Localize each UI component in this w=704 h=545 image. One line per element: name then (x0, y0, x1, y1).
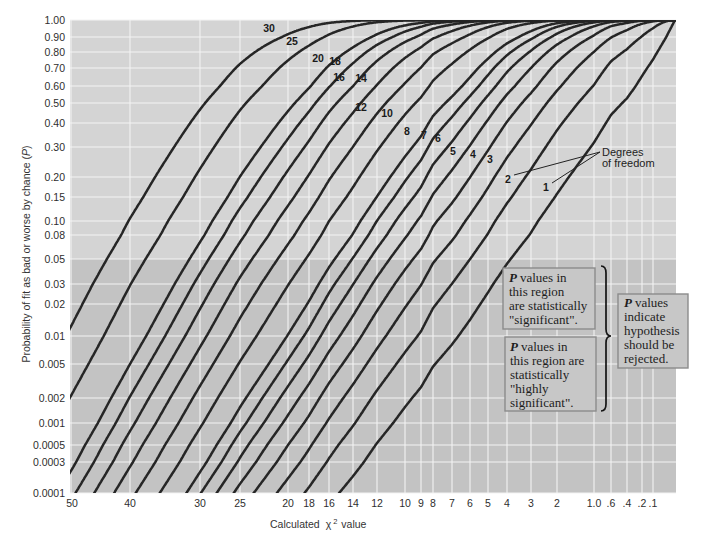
x-tick-label: .2 (638, 497, 647, 509)
curve-label-df-10: 10 (381, 107, 393, 119)
y-tick-label: 0.05 (45, 253, 66, 265)
curve-label-df-3: 3 (487, 153, 493, 165)
x-tick-label: .1 (649, 497, 658, 509)
x-tick-label: 16 (323, 497, 335, 509)
x-tick-label: 3 (528, 497, 534, 509)
x-tick-label: 25 (234, 497, 246, 509)
chi-symbol: χ (326, 518, 332, 530)
p-variable: P (624, 295, 633, 310)
x-tick-label: 1.0 (587, 497, 602, 509)
y-tick-label: 1.00 (45, 14, 66, 26)
annotation-line: hypothesis (624, 323, 680, 338)
x-tick-label: 12 (371, 497, 383, 509)
y-tick-label: 0.03 (45, 278, 66, 290)
p-variable: P (510, 339, 519, 354)
x-axis-label-text: Calculated (270, 518, 320, 530)
y-tick-label: 0.005 (39, 358, 65, 370)
y-tick-label: 0.08 (45, 229, 66, 241)
curve-label-df-8: 8 (404, 125, 410, 137)
y-tick-label: 0.50 (45, 97, 66, 109)
annotation-line: Pvalues (624, 295, 668, 310)
curve-label-df-25: 25 (286, 35, 298, 47)
annotation-line: this region are (510, 353, 585, 368)
curve-label-df-4: 4 (470, 148, 476, 160)
y-axis-tick-labels: 1.000.900.800.700.600.500.400.300.200.15… (33, 14, 65, 499)
annotation-highly-significant: Pvalues in this region are statistically… (505, 337, 596, 411)
annotation-reject-hypothesis: Pvalues indicate hypothesis should be re… (618, 294, 688, 368)
curve-label-df-18: 18 (329, 55, 341, 67)
curve-label-df-1: 1 (543, 181, 549, 193)
y-tick-label: 0.70 (45, 62, 66, 74)
annotation-line: are statistically (509, 298, 588, 313)
y-tick-label: 0.0001 (33, 487, 65, 499)
x-tick-label: 9 (418, 497, 424, 509)
y-tick-label: 0.40 (45, 117, 66, 129)
y-tick-label: 0.01 (45, 330, 66, 342)
y-tick-label: 0.20 (45, 171, 66, 183)
x-tick-label: .4 (623, 497, 632, 509)
chi-square-chart-figure: 1.000.900.800.700.600.500.400.300.200.15… (0, 0, 704, 545)
curve-label-df-7: 7 (421, 129, 427, 141)
y-axis-label-close: ) (20, 145, 32, 149)
y-tick-label: 0.90 (45, 31, 66, 43)
y-tick-label: 0.02 (45, 298, 66, 310)
annotation-line: rejected. (624, 351, 668, 366)
x-tick-label: 7 (449, 497, 455, 509)
x-tick-label: 8 (430, 497, 436, 509)
x-tick-label: 2 (554, 497, 560, 509)
callout-line-2: of freedom (602, 157, 655, 169)
x-tick-label: 40 (124, 497, 136, 509)
x-tick-label: 18 (303, 497, 315, 509)
x-tick-label: 20 (282, 497, 294, 509)
x-axis-tick-labels: 50403025201816141210987654321.0.6.4.2.1 (66, 497, 657, 509)
curve-label-df-20: 20 (312, 52, 324, 64)
x-axis-label-suffix: value (341, 518, 366, 530)
x-tick-label: 30 (194, 497, 206, 509)
curve-label-df-30: 30 (263, 22, 275, 34)
annotation-line: "highly (510, 381, 549, 396)
y-tick-label: 0.80 (45, 46, 66, 58)
curve-label-df-6: 6 (435, 132, 441, 144)
curve-label-df-14: 14 (355, 72, 367, 84)
y-tick-label: 0.0005 (33, 439, 65, 451)
y-tick-label: 0.15 (45, 191, 66, 203)
annotation-line: significant". (510, 395, 573, 410)
curve-label-df-16: 16 (333, 71, 345, 83)
y-axis-label: Probability of fit as bad or worse by ch… (20, 145, 32, 362)
chi-superscript: 2 (333, 517, 337, 526)
y-tick-label: 0.60 (45, 80, 66, 92)
y-tick-label: 0.001 (39, 417, 65, 429)
x-tick-label: 14 (347, 497, 359, 509)
curve-label-df-2: 2 (505, 173, 511, 185)
x-tick-label: 6 (467, 497, 473, 509)
x-tick-label: 50 (66, 497, 78, 509)
y-axis-label-text: Probability of fit as bad or worse by ch… (20, 155, 32, 362)
y-axis-label-variable: P (20, 149, 32, 156)
y-tick-label: 0.0003 (33, 456, 65, 468)
curve-label-df-12: 12 (355, 101, 367, 113)
y-tick-label: 0.002 (39, 392, 65, 404)
annotation-line: should be (624, 337, 674, 352)
p-variable: P (509, 270, 518, 285)
x-tick-label: 5 (485, 497, 491, 509)
annotation-line: this region (509, 284, 565, 299)
chi-square-probability-chart: 1.000.900.800.700.600.500.400.300.200.15… (0, 0, 704, 545)
annotation-line: "significant". (509, 312, 578, 327)
x-tick-label: 4 (504, 497, 510, 509)
y-tick-label: 0.10 (45, 215, 66, 227)
curve-label-df-5: 5 (450, 145, 456, 157)
annotation-significant: Pvalues in this region are statistically… (503, 268, 595, 329)
annotation-line: indicate (624, 309, 665, 324)
x-tick-label: .6 (607, 497, 616, 509)
annotation-line: statistically (510, 367, 570, 382)
y-tick-label: 0.30 (45, 141, 66, 153)
x-tick-label: 10 (399, 497, 411, 509)
x-axis-label: Calculatedχ2value (270, 517, 367, 530)
